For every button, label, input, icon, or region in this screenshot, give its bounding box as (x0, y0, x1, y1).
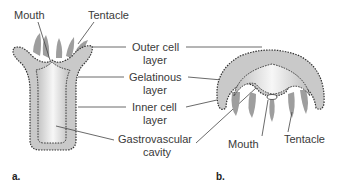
polyp-figure (13, 33, 92, 150)
label-tentacle-b: Tentacle (284, 133, 325, 145)
label-tentacle-a: Tentacle (88, 9, 129, 21)
label-outer-cell-layer-2: layer (143, 54, 167, 66)
label-inner-cell-layer-2: layer (143, 114, 167, 126)
polyp-gastrovascular-cavity (36, 62, 70, 143)
panel-label-b: b. (216, 171, 225, 182)
label-gastrovascular-cavity-2: cavity (143, 146, 172, 158)
label-mouth-a: Mouth (14, 9, 45, 21)
label-gelatinous-layer-1: Gelatinous (129, 71, 182, 83)
label-mouth-b: Mouth (228, 138, 259, 150)
cnidarian-body-plans-diagram: Mouth Tentacle Outer cell layer Gelatino… (0, 0, 341, 185)
label-inner-cell-layer-1: Inner cell (132, 101, 177, 113)
panel-label-a: a. (12, 171, 21, 182)
label-outer-cell-layer-1: Outer cell (132, 41, 179, 53)
medusa-figure (217, 50, 324, 122)
medusa-mouth-opening (267, 95, 277, 100)
label-gelatinous-layer-2: layer (143, 84, 167, 96)
label-gastrovascular-cavity-1: Gastrovascular (118, 133, 192, 145)
